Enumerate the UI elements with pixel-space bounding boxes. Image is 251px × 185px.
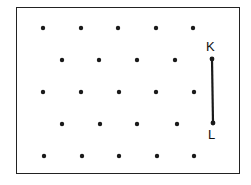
grid-dot <box>79 26 83 30</box>
grid-dot <box>135 122 139 126</box>
segment-kl <box>212 59 213 123</box>
dot-grid <box>0 0 251 185</box>
grid-dot <box>80 154 84 158</box>
grid-dot <box>154 26 158 30</box>
grid-dot <box>60 58 64 62</box>
grid-dot <box>191 26 195 30</box>
grid-dot <box>98 122 102 126</box>
grid-dot <box>154 90 158 94</box>
grid-dot <box>192 154 196 158</box>
grid-dot <box>155 154 159 158</box>
label-k: K <box>206 40 215 53</box>
label-l: L <box>208 128 215 141</box>
point-k <box>210 57 215 62</box>
grid-dot <box>116 26 120 30</box>
grid-dot <box>42 154 46 158</box>
grid-dot <box>117 90 121 94</box>
grid-dot <box>173 58 177 62</box>
grid-dot <box>97 58 101 62</box>
grid-dot <box>79 90 83 94</box>
grid-dot <box>135 58 139 62</box>
grid-dot <box>117 154 121 158</box>
grid-dot <box>41 26 45 30</box>
grid-dot <box>192 90 196 94</box>
point-l <box>211 121 216 126</box>
grid-dot <box>60 122 64 126</box>
grid-dot <box>41 90 45 94</box>
grid-dot <box>175 122 179 126</box>
